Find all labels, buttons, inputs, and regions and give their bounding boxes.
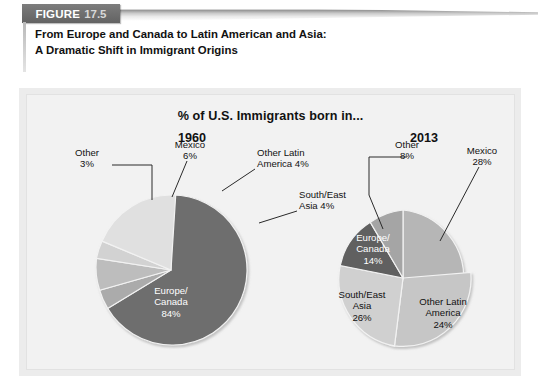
callout-1960-other: Other 3% — [57, 147, 117, 170]
figure-title-line1: From Europe and Canada to Latin American… — [35, 27, 465, 43]
callout-2013-mexico: Mexico 28% — [454, 145, 510, 168]
chart-plot-area: % of U.S. Immigrants born in... 1960 201… — [26, 94, 515, 370]
callout-1960-south-east-asia: South/East Asia 4% — [299, 189, 346, 212]
callout-1960-other-line1: Other — [57, 147, 117, 158]
pie-2013-label-other-latin-line1: Other Latin — [403, 296, 483, 307]
callout-1960-asia-line1: South/East — [299, 189, 346, 200]
pie-1960 — [96, 195, 247, 345]
pie-1960-label-europe-line1: Europe/ — [133, 285, 209, 296]
pie-1960-label-europe-value: 84% — [133, 308, 209, 319]
chart-panel: % of U.S. Immigrants born in... 1960 201… — [19, 88, 521, 376]
figure-badge-label: FIGURE — [35, 8, 80, 20]
pie-2013-label-europe-line1: Europe/ — [338, 232, 408, 243]
callout-1960-asia-line2: Asia 4% — [299, 200, 346, 211]
leader-1960-mexico — [172, 161, 187, 197]
figure-title-line2: A Dramatic Shift in Immigrant Origins — [35, 43, 465, 59]
pie-2013-label-south-east-asia: South/East Asia 26% — [324, 289, 400, 323]
callout-1960-mexico-line1: Mexico — [163, 139, 217, 150]
callout-1960-other-latin-line2: America 4% — [257, 158, 309, 169]
pie-2013-label-asia-value: 26% — [324, 312, 400, 323]
callout-2013-mexico-line2: 28% — [454, 156, 510, 167]
pie-2013-label-europe-value: 14% — [338, 255, 408, 266]
pie-2013-label-asia-line1: South/East — [324, 289, 400, 300]
figure-header: FIGURE 17.5 From Europe and Canada to La… — [0, 0, 541, 78]
figure-badge-number: 17.5 — [84, 8, 106, 20]
figure-title: From Europe and Canada to Latin American… — [35, 27, 465, 58]
figure-badge: FIGURE 17.5 — [22, 4, 120, 23]
callout-1960-other-line2: 3% — [57, 158, 117, 169]
pie-2013-label-other-latin-america: Other Latin America 24% — [403, 296, 483, 330]
leader-1960-asia — [259, 211, 297, 223]
callout-2013-other: Other 8% — [380, 139, 434, 162]
leader-1960-other-latin — [222, 169, 255, 191]
header-vertical-rule — [23, 22, 26, 72]
pie-1960-label-europe-canada: Europe/ Canada 84% — [133, 285, 209, 319]
callout-1960-mexico: Mexico 6% — [163, 139, 217, 162]
callout-1960-other-latin-america: Other Latin America 4% — [257, 147, 309, 170]
pie-2013-label-europe-line2: Canada — [338, 243, 408, 254]
pie-2013-label-other-latin-line2: America — [403, 307, 483, 318]
callout-1960-mexico-line2: 6% — [163, 150, 217, 161]
leader-1960-other — [112, 165, 152, 200]
pie-2013-label-other-latin-value: 24% — [403, 319, 483, 330]
callout-2013-other-line2: 8% — [380, 150, 434, 161]
pie-2013-label-asia-line2: Asia — [324, 300, 400, 311]
callout-2013-other-line1: Other — [380, 139, 434, 150]
callout-2013-mexico-line1: Mexico — [454, 145, 510, 156]
pie-1960-label-europe-line2: Canada — [133, 296, 209, 307]
pie-2013-label-europe-canada: Europe/ Canada 14% — [338, 232, 408, 266]
callout-1960-other-latin-line1: Other Latin — [257, 147, 309, 158]
leader-2013-mexico — [440, 167, 479, 241]
badge-tail-decoration — [118, 6, 538, 21]
